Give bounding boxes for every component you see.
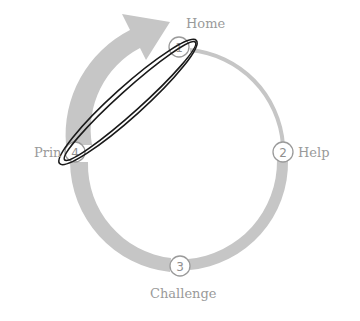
node-2-number: 2	[279, 146, 287, 160]
node-3-number: 3	[176, 260, 184, 274]
node-3: 3	[170, 256, 190, 276]
node-2: 2	[273, 142, 293, 162]
node-2-label: Help	[298, 146, 330, 159]
cycle-diagram: 1 2 3 4	[0, 0, 360, 321]
node-1-label: Home	[186, 17, 225, 30]
node-3-label: Challenge	[150, 287, 216, 300]
node-4-label: Prin	[34, 146, 62, 159]
node-4: 4	[65, 142, 85, 162]
node-1: 1	[169, 37, 189, 57]
